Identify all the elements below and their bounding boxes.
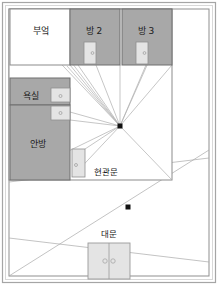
room-kitchen[interactable] — [10, 9, 70, 65]
door-entrance[interactable] — [72, 149, 85, 177]
door-master[interactable] — [51, 106, 70, 120]
room-label-kitchen: 부엌 — [33, 25, 49, 36]
main-gate-label: 대문 — [101, 229, 117, 239]
door-bathroom[interactable] — [51, 88, 70, 102]
vanishing-point-yard — [126, 205, 131, 210]
floorplan-svg: 부엌 방 2 방 3 욕실 안방 현관문 대문 — [0, 0, 218, 285]
entrance-door-label: 현관문 — [94, 167, 118, 177]
room-label-master: 안방 — [30, 139, 46, 149]
floorplan-canvas: 부엌 방 2 방 3 욕실 안방 현관문 대문 — [0, 0, 218, 285]
door-room2[interactable] — [84, 42, 96, 64]
main-gate[interactable] — [88, 243, 130, 279]
door-room3[interactable] — [136, 42, 148, 64]
vanishing-point-interior — [118, 124, 123, 129]
room-label-room3: 방 3 — [138, 26, 155, 36]
room-label-room2: 방 2 — [86, 26, 103, 36]
room-label-bathroom: 욕실 — [23, 91, 39, 101]
